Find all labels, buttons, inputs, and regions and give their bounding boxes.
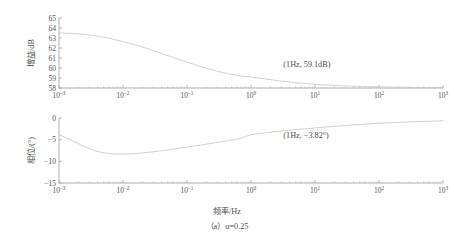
y-axis-tick-label: 61: [48, 54, 56, 63]
y-axis-tick-label: −15: [44, 179, 56, 188]
figure-caption: （a）α=0.25: [206, 222, 249, 231]
y-axis-tick-label: −10: [44, 157, 56, 166]
y-axis-tick-label: 60: [48, 64, 56, 73]
y-axis-tick-label: 63: [48, 34, 56, 43]
y-axis-title: 相位/(°): [26, 137, 36, 164]
figure-background: [0, 0, 454, 240]
y-axis-title: 增益/dB: [26, 39, 36, 67]
y-axis-tick-label: 58: [48, 84, 56, 93]
y-axis-tick-label: 64: [48, 24, 56, 33]
data-point-annotation: (1Hz, −3.82°): [283, 131, 329, 140]
y-axis-tick-label: 65: [48, 14, 56, 23]
y-axis-tick-label: 59: [48, 74, 56, 83]
y-axis-tick-label: 62: [48, 44, 56, 53]
y-axis-tick-label: 0: [52, 114, 56, 123]
bode-figure: 10−310−210−11001011021035859606162636465…: [0, 0, 454, 240]
x-axis-title: 频率/Hz: [213, 206, 241, 216]
bode-plot-svg: 10−310−210−11001011021035859606162636465…: [0, 0, 454, 240]
data-point-annotation: (1Hz, 59.1dB): [283, 60, 330, 69]
y-axis-tick-label: −5: [48, 135, 56, 144]
